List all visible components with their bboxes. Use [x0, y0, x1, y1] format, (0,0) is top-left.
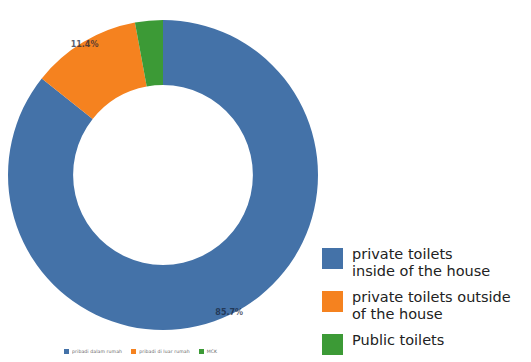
- side-legend: private toilets inside of the house priv…: [322, 246, 531, 362]
- side-legend-label: private toilets outside of the house: [352, 289, 511, 323]
- donut-chart: 85.7% 11.4%: [0, 0, 340, 340]
- bottom-legend-item-mck[interactable]: MCK: [199, 349, 217, 354]
- bottom-legend-label: pribadi dalam rumah: [72, 349, 122, 354]
- bottom-legend-item-pribadi-di-luar-rumah[interactable]: pribadi di luar rumah: [131, 349, 190, 354]
- donut-chart-figure: 85.7% 11.4% pribadi dalam rumah pribadi …: [0, 0, 531, 362]
- legend-swatch-green-icon: [322, 334, 343, 355]
- side-legend-item-private-outside[interactable]: private toilets outside of the house: [322, 289, 531, 323]
- side-legend-label: Public toilets: [352, 332, 444, 349]
- side-legend-item-private-inside[interactable]: private toilets inside of the house: [322, 246, 531, 280]
- donut-slices: [8, 20, 318, 330]
- legend-swatch-blue-icon: [322, 248, 343, 269]
- slice-value-label-private-outside: 11.4%: [71, 40, 99, 49]
- legend-swatch-green-icon: [199, 349, 204, 354]
- legend-swatch-blue-icon: [64, 349, 69, 354]
- side-legend-label: private toilets inside of the house: [352, 246, 490, 280]
- legend-swatch-orange-icon: [131, 349, 136, 354]
- bottom-legend-item-pribadi-dalam-rumah[interactable]: pribadi dalam rumah: [64, 349, 122, 354]
- side-legend-item-public[interactable]: Public toilets: [322, 332, 531, 355]
- bottom-legend: pribadi dalam rumah pribadi di luar ruma…: [64, 344, 304, 358]
- slice-value-label-private-inside: 85.7%: [215, 308, 243, 317]
- bottom-legend-label: MCK: [207, 349, 217, 354]
- legend-swatch-orange-icon: [322, 291, 343, 312]
- bottom-legend-label: pribadi di luar rumah: [139, 349, 190, 354]
